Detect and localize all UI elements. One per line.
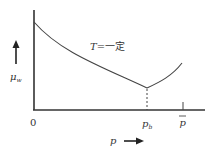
right-arrow-icon bbox=[124, 138, 144, 145]
pbar-label: p bbox=[179, 116, 187, 128]
mu-w-curve bbox=[34, 22, 182, 88]
y-axis-label: μw bbox=[10, 71, 23, 83]
svg-text:p: p bbox=[180, 117, 187, 128]
up-arrow-icon bbox=[13, 40, 20, 64]
curve-label: T=一定 bbox=[90, 40, 125, 52]
origin-label: 0 bbox=[30, 117, 36, 128]
diagram-canvas: 0 T=一定 μw p pb p bbox=[0, 0, 212, 151]
x-axis-label: p bbox=[110, 135, 117, 146]
pb-label: pb bbox=[142, 118, 152, 130]
